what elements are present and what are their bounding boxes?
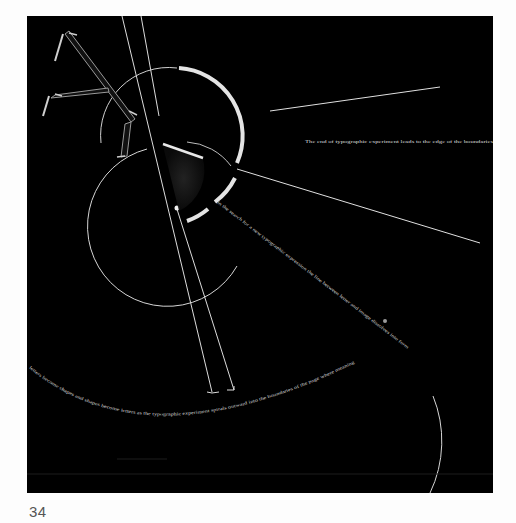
arc-text: letters become shapes and shapes become … xyxy=(27,16,357,417)
diagonal-text: in the search for a new typographic expr… xyxy=(216,200,410,350)
arc-text-line: letters become shapes and shapes become … xyxy=(27,16,357,417)
letter-y-glyph xyxy=(43,31,137,157)
small-dot xyxy=(383,319,387,323)
radiating-lines xyxy=(237,87,480,243)
artwork-plate: The end of typographic experiment leads … xyxy=(27,16,493,493)
page-number: 34 xyxy=(29,503,47,520)
diagonal-text-line: in the search for a new typographic expr… xyxy=(216,200,410,350)
bottom-right-arc xyxy=(430,396,442,493)
book-page: The end of typographic experiment leads … xyxy=(0,0,516,523)
right-caption: The end of typographic experiment leads … xyxy=(305,139,493,144)
upper-circle xyxy=(101,67,243,221)
faint-baselines xyxy=(27,459,493,474)
lower-circle xyxy=(88,149,237,306)
abstract-typographic-composition: The end of typographic experiment leads … xyxy=(27,16,493,493)
